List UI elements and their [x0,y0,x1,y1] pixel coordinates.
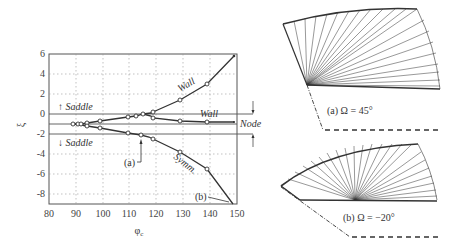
point-b-arrow [208,197,229,202]
x-axis-label: φc [135,225,144,238]
node-label: Node [239,118,262,129]
svg-text:-6: -6 [37,168,45,179]
svg-text:6: 6 [40,48,45,59]
series-wall-middle [143,114,234,122]
plot-area: 6 4 2 0 -2 -4 -6 -8 80 90 100 110 120 13… [15,48,262,238]
svg-text:90: 90 [71,208,81,219]
svg-text:150: 150 [230,208,245,219]
arrowhead-icon [140,139,143,144]
symm-label: Symm. [172,151,200,176]
svg-text:-8: -8 [37,188,45,199]
grid [49,54,237,204]
svg-text:110: 110 [122,208,137,219]
endpoint-marker [233,55,236,58]
x-tick-labels: 80 90 100 110 120 130 140 150 [44,208,245,219]
y-axis-label: ξ [15,122,27,127]
svg-text:2: 2 [40,88,45,99]
svg-text:120: 120 [149,208,164,219]
svg-text:-2: -2 [37,128,45,139]
point-a-label: (a) [124,157,135,169]
wall-middle-label: Wall [200,108,218,119]
panel-b-fan [281,144,438,237]
wall-upper-label: Wall [176,75,197,94]
saddle-down-label: ↓ Saddle [58,137,93,148]
panel-a-caption: (a) Ω = 45° [327,105,373,117]
panel-b-caption: (b) Ω = −20° [343,212,395,224]
series-symm [73,124,233,204]
svg-text:4: 4 [40,68,45,79]
svg-text:-4: -4 [37,148,45,159]
svg-text:140: 140 [203,208,218,219]
saddle-up-label: ↑ Saddle [58,101,93,112]
arrow-up-icon [252,134,255,138]
endpoint-marker [233,121,235,123]
y-tick-labels: 6 4 2 0 -2 -4 -6 -8 [37,48,45,199]
svg-text:130: 130 [176,208,191,219]
arrow-down-icon [252,110,255,114]
point-a-arrow [137,142,141,162]
svg-text:100: 100 [96,208,111,219]
svg-text:80: 80 [44,208,54,219]
figure: 6 4 2 0 -2 -4 -6 -8 80 90 100 110 120 13… [0,0,455,251]
svg-text:0: 0 [40,108,45,119]
point-b-label: (b) [195,191,207,203]
